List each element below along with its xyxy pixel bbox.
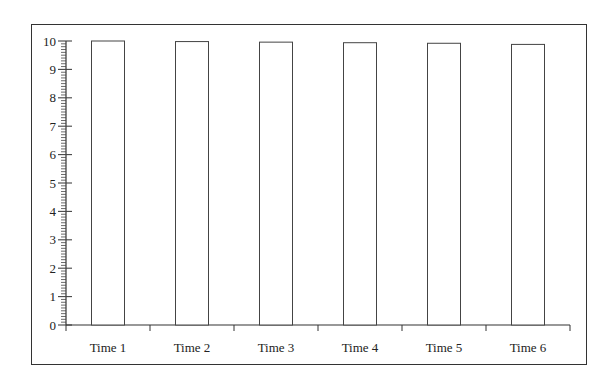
- x-category-label: Time 6: [510, 340, 547, 355]
- bar-chart: 012345678910 Time 1Time 2Time 3Time 4Tim…: [0, 0, 616, 386]
- bar-time-2: [176, 42, 209, 325]
- y-tick-label: 10: [43, 34, 56, 49]
- x-category-label: Time 4: [342, 340, 379, 355]
- y-tick-label: 4: [50, 204, 57, 219]
- bar-time-4: [344, 43, 377, 325]
- bars: [92, 41, 545, 325]
- y-tick-label: 6: [50, 147, 57, 162]
- y-tick-label: 3: [50, 232, 57, 247]
- y-tick-label: 0: [50, 318, 57, 333]
- x-axis: Time 1Time 2Time 3Time 4Time 5Time 6: [66, 325, 570, 355]
- y-tick-label: 8: [50, 90, 57, 105]
- bar-time-3: [260, 42, 293, 325]
- y-tick-label: 1: [50, 289, 57, 304]
- bar-time-1: [92, 41, 125, 325]
- y-tick-label: 7: [50, 119, 57, 134]
- y-tick-label: 9: [50, 62, 57, 77]
- y-tick-label: 5: [50, 176, 57, 191]
- y-tick-label: 2: [50, 261, 57, 276]
- x-category-label: Time 3: [258, 340, 295, 355]
- x-category-label: Time 1: [90, 340, 127, 355]
- x-category-label: Time 2: [174, 340, 211, 355]
- bar-time-6: [512, 44, 545, 325]
- x-category-label: Time 5: [426, 340, 463, 355]
- bar-time-5: [428, 43, 461, 325]
- y-axis: 012345678910: [43, 34, 72, 333]
